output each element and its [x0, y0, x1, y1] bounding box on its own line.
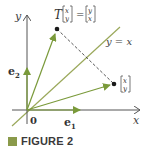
caption-label: FIGURE 2: [21, 135, 73, 147]
svg-text:y: y: [64, 15, 70, 23]
e2-label: e2: [8, 65, 20, 80]
x-axis-label: x: [133, 114, 140, 127]
point-label: x y: [121, 76, 130, 93]
e1-label: e1: [64, 116, 76, 131]
caption-square-icon: [8, 137, 17, 146]
svg-text:T: T: [54, 8, 63, 22]
y-axis-label: y: [14, 10, 22, 23]
reflection-diagram: y x 0 e1 e2 y = x T x y = y x x y: [0, 0, 152, 152]
vector-to-point: [27, 85, 110, 110]
transform-equation: T x y = y x: [54, 6, 95, 23]
svg-text:y: y: [122, 85, 128, 93]
reflected-point: [55, 27, 60, 32]
origin-label: 0: [30, 115, 37, 126]
svg-text:x: x: [123, 77, 127, 85]
figure-caption: FIGURE 2: [8, 134, 73, 148]
svg-text:y: y: [87, 7, 93, 15]
original-point: [112, 82, 117, 87]
vector-to-T-point: [27, 34, 55, 110]
line-label: y = x: [105, 36, 132, 47]
svg-text:x: x: [65, 7, 69, 15]
svg-text:=: =: [76, 9, 84, 20]
svg-text:x: x: [88, 15, 92, 23]
line-y-equals-x: [12, 27, 120, 126]
